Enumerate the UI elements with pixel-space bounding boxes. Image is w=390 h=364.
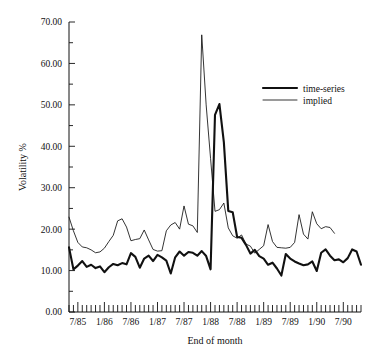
y-axis-tick-labels: 0.0010.0020.0030.0040.0050.0060.0070.00 [41,17,63,317]
legend-label-time-series: time-series [303,84,345,94]
x-axis-ticks [69,302,361,312]
x-tick-label: 7/90 [335,317,352,327]
x-tick-label: 7/85 [69,317,86,327]
y-tick-label: 0.00 [45,307,62,317]
series-line-time-series [69,104,361,276]
plot-series [69,35,361,276]
x-tick-label: 1/89 [255,317,272,327]
y-tick-label: 40.00 [41,142,63,152]
legend-label-implied: implied [303,96,332,106]
y-tick-label: 70.00 [41,17,63,27]
y-axis-title: Volatility % [17,143,28,191]
y-axis: 0.0010.0020.0030.0040.0050.0060.0070.00 [41,17,75,317]
y-tick-label: 60.00 [41,59,63,69]
x-tick-label: 1/86 [96,317,113,327]
x-tick-label: 1/88 [202,317,219,327]
x-tick-label: 7/87 [176,317,193,327]
volatility-chart: 0.0010.0020.0030.0040.0050.0060.0070.00 … [0,0,390,364]
x-tick-label: 1/87 [149,317,166,327]
series-line-implied [69,35,334,253]
x-axis-tick-labels: 7/851/867/861/877/871/887/881/897/891/90… [69,317,352,327]
y-tick-label: 50.00 [41,100,63,110]
y-tick-label: 30.00 [41,183,63,193]
x-tick-label: 1/90 [308,317,325,327]
x-axis: 7/851/867/861/877/871/887/881/897/891/90… [69,302,361,327]
y-tick-label: 20.00 [41,225,63,235]
chart-svg: 0.0010.0020.0030.0040.0050.0060.0070.00 … [0,0,390,364]
y-tick-label: 10.00 [41,266,63,276]
legend: time-series implied [263,84,345,106]
x-tick-label: 7/88 [229,317,246,327]
x-axis-title: End of month [188,335,243,346]
x-tick-label: 7/86 [122,317,139,327]
x-tick-label: 7/89 [282,317,299,327]
